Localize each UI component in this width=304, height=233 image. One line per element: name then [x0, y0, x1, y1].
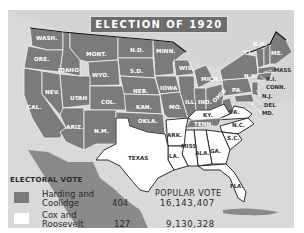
cox-label-line2: Roosevelt — [42, 220, 84, 228]
legend: ELECTORAL VOTE Harding and Coolidge 404 … — [10, 176, 290, 226]
label-texas: TEXAS — [128, 155, 148, 161]
label-wis: WIS. — [179, 65, 194, 71]
harding-popular-vote: 16,143,407 — [160, 198, 215, 208]
label-miss: MISS — [181, 143, 196, 149]
label-kan: KAN. — [136, 104, 152, 110]
label-cal: CAL. — [27, 104, 42, 110]
label-utah: UTAH — [70, 95, 88, 101]
label-me: ME. — [271, 50, 283, 56]
label-nj: N.J. — [262, 93, 273, 100]
label-pa: PA. — [232, 87, 242, 93]
state-del-md[interactable] — [234, 94, 254, 102]
state-utah[interactable] — [60, 74, 90, 108]
label-sd: S.D. — [130, 68, 143, 74]
label-okla: OKLA. — [138, 118, 158, 124]
label-tenn: TENN. — [194, 121, 214, 127]
label-neb: NEB. — [133, 88, 148, 94]
label-mass: MASS — [274, 67, 291, 73]
harding-electoral-vote: 404 — [112, 198, 128, 208]
label-wash: WASH. — [36, 35, 58, 41]
label-idaho: IDAHO — [58, 67, 79, 73]
harding-label-line2: Coolidge — [42, 199, 79, 208]
label-iowa: IOWA — [160, 85, 178, 91]
state-nj[interactable] — [252, 82, 258, 96]
label-nm: N.M. — [94, 128, 109, 134]
label-mont: MONT. — [86, 51, 107, 57]
state-col[interactable] — [90, 86, 126, 110]
cox-electoral-vote: 127 — [114, 219, 130, 228]
label-ri: R.I. — [266, 76, 276, 82]
label-ind: IND. — [198, 99, 212, 105]
label-ark: ARK. — [167, 132, 182, 138]
label-md: MD. — [262, 110, 274, 116]
harding-swatch — [14, 192, 29, 203]
popular-vote-heading: POPULAR VOTE — [155, 189, 221, 198]
label-ore: ORE. — [34, 56, 49, 62]
map-title: ELECTION OF 1920 — [90, 16, 228, 33]
cox-swatch — [14, 213, 29, 224]
label-del: DEL — [264, 102, 276, 108]
label-sc: S.C. — [227, 135, 239, 141]
label-vt: VT. — [243, 49, 253, 55]
label-conn: CONN. — [266, 84, 286, 90]
label-ala: ALA. — [195, 150, 209, 156]
label-ill: ILL. — [185, 99, 197, 105]
label-nc: N.C. — [232, 122, 245, 128]
election-map-frame: WASH. ORE. CAL. IDAHO NEV. MONT. WYO. UT… — [8, 10, 294, 228]
label-col: COL. — [101, 99, 116, 105]
label-nh: N.H. — [253, 41, 267, 47]
label-minn: MINN. — [156, 48, 176, 54]
label-ky: KY. — [203, 112, 213, 118]
cox-popular-vote: 9,130,328 — [166, 219, 215, 228]
label-nev: NEV. — [45, 89, 60, 95]
label-ny: N.Y. — [244, 73, 256, 79]
label-va: VA. — [229, 109, 240, 115]
label-la: LA. — [169, 153, 179, 159]
electoral-vote-heading: ELECTORAL VOTE — [10, 176, 83, 184]
state-nh[interactable] — [264, 44, 270, 66]
label-wyo: WYO. — [92, 72, 109, 78]
label-mich: MICH. — [201, 76, 220, 82]
label-nd: N.D. — [130, 47, 144, 53]
label-ga: GA. — [210, 148, 221, 154]
label-ariz: ARIZ. — [66, 124, 83, 130]
label-mo: MO. — [169, 104, 182, 110]
